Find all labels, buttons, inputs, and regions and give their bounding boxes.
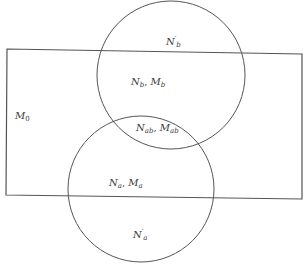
label-n-prime-b: N′b xyxy=(166,36,181,49)
label-text: M xyxy=(151,76,161,87)
label-text: N xyxy=(131,76,140,87)
label-text: N xyxy=(133,229,142,240)
subscript: b xyxy=(161,81,165,89)
label-nab-mab: Nab, Mab xyxy=(136,123,179,135)
label-text: N xyxy=(166,36,175,47)
subscript: a xyxy=(143,234,147,242)
label-text: N xyxy=(109,177,118,188)
label-text: M xyxy=(160,122,170,133)
subscript: a xyxy=(139,182,143,190)
label-n-prime-a: N′a xyxy=(133,229,148,242)
label-nb-mb: Nb, Mb xyxy=(131,77,165,89)
subscript: 0 xyxy=(25,115,29,123)
subscript: ab xyxy=(170,127,179,135)
label-na-ma: Na, Ma xyxy=(109,178,143,190)
subscript: b xyxy=(176,41,180,49)
label-text: M xyxy=(15,110,25,121)
label-text: M xyxy=(128,177,138,188)
label-text: N xyxy=(136,122,145,133)
label-m0: M0 xyxy=(15,111,30,123)
